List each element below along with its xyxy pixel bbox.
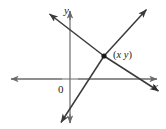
- ascending-line: [61, 10, 147, 123]
- ascending-line-lower-ray: [61, 56, 104, 123]
- descending-line-lower-ray: [104, 56, 159, 91]
- figure-canvas: [0, 0, 166, 129]
- descending-line-upper-ray: [50, 14, 105, 56]
- intersection-point-marker: [101, 53, 106, 58]
- coordinate-plane-figure: y x 0 (x y): [0, 0, 166, 129]
- ascending-line-upper-ray: [104, 10, 147, 57]
